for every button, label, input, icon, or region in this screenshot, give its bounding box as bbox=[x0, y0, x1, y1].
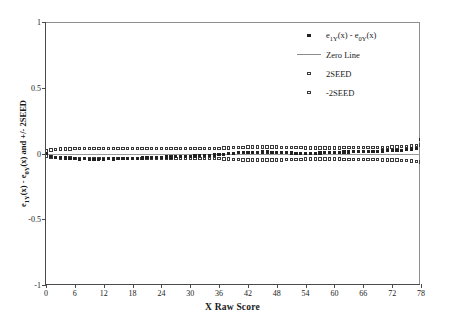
data-point bbox=[145, 156, 148, 159]
filled-square-icon bbox=[296, 34, 322, 37]
data-point bbox=[400, 149, 403, 152]
data-point bbox=[184, 147, 187, 150]
data-point bbox=[270, 151, 273, 154]
legend-item[interactable]: -2SEED bbox=[296, 83, 436, 102]
data-point bbox=[131, 157, 134, 160]
data-point bbox=[155, 156, 158, 159]
data-point bbox=[68, 147, 71, 150]
data-point bbox=[299, 146, 302, 149]
data-point bbox=[107, 157, 110, 160]
data-point bbox=[59, 147, 62, 150]
data-point bbox=[357, 158, 360, 161]
data-point bbox=[275, 151, 278, 154]
data-point bbox=[116, 147, 119, 150]
data-point bbox=[92, 147, 95, 150]
data-point bbox=[309, 157, 312, 160]
data-point bbox=[357, 146, 360, 149]
x-axis-label: X Raw Score bbox=[45, 302, 420, 312]
data-point bbox=[136, 157, 139, 160]
data-point bbox=[246, 151, 249, 154]
data-point bbox=[342, 146, 345, 149]
data-point bbox=[174, 155, 177, 158]
data-point bbox=[251, 151, 254, 154]
data-point bbox=[405, 159, 408, 162]
data-point bbox=[371, 146, 374, 149]
data-point bbox=[112, 147, 115, 150]
data-point bbox=[376, 158, 379, 161]
data-point bbox=[304, 157, 307, 160]
data-point bbox=[83, 157, 86, 160]
data-point bbox=[347, 158, 350, 161]
data-point bbox=[189, 155, 192, 158]
data-point bbox=[415, 160, 418, 163]
data-point bbox=[419, 138, 420, 141]
data-point bbox=[107, 147, 110, 150]
data-point bbox=[242, 151, 245, 154]
data-point bbox=[265, 158, 268, 161]
data-point bbox=[371, 158, 374, 161]
x-tick-label: 0 bbox=[44, 289, 48, 298]
data-point bbox=[131, 147, 134, 150]
data-point bbox=[68, 157, 71, 160]
data-point bbox=[97, 158, 100, 161]
data-point bbox=[381, 146, 384, 149]
legend-label: e1Y(x) - e0Y(x) bbox=[322, 30, 376, 42]
data-point bbox=[241, 158, 244, 161]
data-point bbox=[410, 159, 413, 162]
data-point bbox=[270, 158, 273, 161]
data-point bbox=[367, 150, 370, 153]
data-point bbox=[217, 153, 220, 156]
data-point bbox=[136, 147, 139, 150]
data-point bbox=[280, 146, 283, 149]
data-point bbox=[381, 158, 384, 161]
data-point bbox=[357, 150, 360, 153]
data-point bbox=[390, 158, 393, 161]
legend-item[interactable]: Zero Line bbox=[296, 45, 436, 64]
data-point bbox=[73, 147, 76, 150]
data-point bbox=[121, 157, 124, 160]
data-point bbox=[189, 147, 192, 150]
x-tick-label: 66 bbox=[359, 289, 367, 298]
data-point bbox=[304, 152, 307, 155]
data-point bbox=[217, 147, 220, 150]
chart-legend: e1Y(x) - e0Y(x)Zero Line2SEED-2SEED bbox=[296, 26, 436, 102]
x-tick-label: 72 bbox=[388, 289, 396, 298]
data-point bbox=[314, 146, 317, 149]
data-point bbox=[328, 151, 331, 154]
data-point bbox=[213, 147, 216, 150]
data-point bbox=[338, 151, 341, 154]
x-tick-mark bbox=[306, 284, 307, 288]
open-square-glyph bbox=[307, 72, 311, 76]
data-point bbox=[338, 157, 341, 160]
data-point bbox=[256, 151, 259, 154]
legend-item[interactable]: 2SEED bbox=[296, 64, 436, 83]
open-square-icon bbox=[296, 91, 322, 95]
legend-item[interactable]: e1Y(x) - e0Y(x) bbox=[296, 26, 436, 45]
data-point bbox=[150, 147, 153, 150]
data-point bbox=[275, 158, 278, 161]
x-tick-label: 24 bbox=[157, 289, 165, 298]
data-point bbox=[232, 146, 235, 149]
data-point bbox=[347, 146, 350, 149]
data-point bbox=[381, 149, 384, 152]
data-point bbox=[227, 146, 230, 149]
data-point bbox=[299, 158, 302, 161]
data-point bbox=[391, 149, 394, 152]
data-point bbox=[165, 147, 168, 150]
data-point bbox=[88, 147, 91, 150]
data-point bbox=[184, 155, 187, 158]
data-point bbox=[304, 146, 307, 149]
x-tick-label: 48 bbox=[273, 289, 281, 298]
y-tick-label: 0 bbox=[37, 149, 41, 158]
data-point bbox=[395, 158, 398, 161]
data-point bbox=[78, 147, 81, 150]
x-tick-mark bbox=[277, 284, 278, 288]
data-point bbox=[232, 158, 235, 161]
data-point bbox=[405, 148, 408, 151]
data-point bbox=[400, 159, 403, 162]
data-point bbox=[102, 147, 105, 150]
data-point bbox=[213, 153, 216, 156]
data-point bbox=[333, 151, 336, 154]
data-point bbox=[352, 150, 355, 153]
data-point bbox=[323, 157, 326, 160]
